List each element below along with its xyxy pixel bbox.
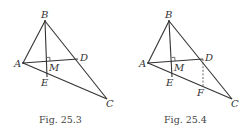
segment-AB (148, 21, 169, 63)
segment-BC (45, 21, 107, 99)
right-angle-mark (47, 57, 50, 61)
point-B (44, 20, 46, 22)
point-A (22, 62, 24, 64)
label-F: F (196, 87, 205, 98)
label-B: B (40, 9, 48, 20)
right-angle-mark (172, 57, 175, 61)
point-A (147, 62, 149, 64)
label-C: C (231, 98, 239, 109)
segment-AB (23, 21, 45, 63)
label-C: C (106, 98, 114, 109)
label-A: A (13, 58, 21, 69)
segment-BE (45, 21, 47, 77)
label-E: E (165, 77, 174, 88)
figure-25-3: B A D M E C Fig. 25.3 (13, 9, 114, 125)
label-D: D (79, 52, 88, 63)
figure-caption: Fig. 25.4 (164, 114, 207, 125)
point-B (168, 20, 170, 22)
figure-25-4: B A D M E F C Fig. 25.4 (138, 9, 239, 125)
label-M: M (173, 62, 185, 73)
label-M: M (48, 62, 60, 73)
segment-AC (23, 63, 107, 99)
segment-BE (169, 21, 172, 77)
label-A: A (138, 58, 146, 69)
label-D: D (204, 52, 213, 63)
geometry-figures: B A D M E C Fig. 25.3 B A D M E F C Fig.… (0, 0, 251, 128)
label-E: E (40, 77, 49, 88)
label-B: B (164, 9, 172, 20)
figure-caption: Fig. 25.3 (39, 114, 82, 125)
segment-AC (148, 63, 232, 99)
